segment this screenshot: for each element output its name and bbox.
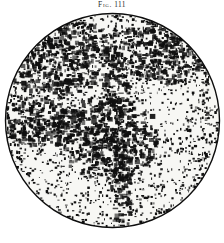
figure-caption: Fig.111 bbox=[0, 0, 224, 10]
figure-caption-number: 111 bbox=[114, 0, 126, 9]
plate-field bbox=[4, 10, 221, 231]
plate-page: Fig.111 bbox=[0, 0, 224, 243]
plate-image bbox=[4, 10, 221, 231]
figure-caption-label: Fig. bbox=[98, 0, 112, 9]
